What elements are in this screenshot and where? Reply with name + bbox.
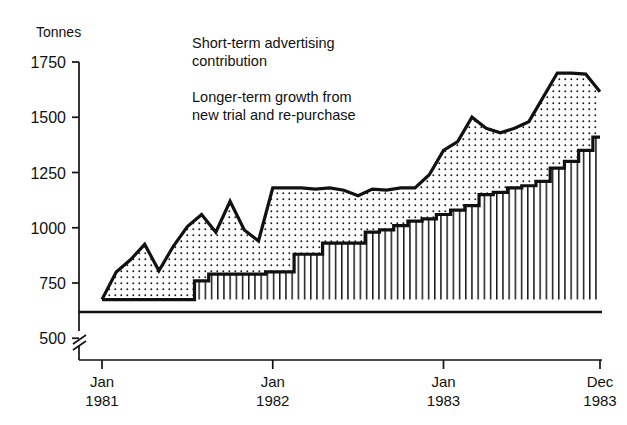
y-tick-label-1500: 1500 (30, 109, 66, 126)
x-tick-month-2: Jan (431, 373, 455, 390)
y-tick-label-1000: 1000 (30, 220, 66, 237)
dotted-swatch (138, 36, 180, 52)
y-tick-group: 5007501000125015001750 (30, 54, 79, 347)
y-axis-title: Tonnes (36, 24, 81, 40)
x-tick-year-2: 1983 (427, 392, 460, 409)
x-tick-year-0: 1981 (85, 392, 118, 409)
x-tick-month-3: Dec (587, 373, 614, 390)
legend-item-0-line1: Short-term advertising (192, 35, 335, 51)
x-tick-year-3: 1983 (583, 392, 616, 409)
chart-container: Tonnes Short-term advertising contributi… (0, 0, 627, 425)
y-tick-label-1750: 1750 (30, 54, 66, 71)
hatch-swatch (138, 88, 180, 108)
y-tick-label-1250: 1250 (30, 165, 66, 182)
x-tick-group: Jan1981Jan1982Jan1983Dec1983 (85, 360, 616, 409)
y-tick-label-500: 500 (39, 330, 66, 347)
chart-svg: Tonnes Short-term advertising contributi… (0, 0, 627, 425)
legend-item-1-line1: Longer-term growth from (192, 89, 352, 105)
x-tick-month-0: Jan (90, 373, 114, 390)
legend-item-1-line2: new trial and re-purchase (192, 107, 356, 123)
legend: Short-term advertising contribution Long… (138, 35, 356, 123)
x-tick-month-1: Jan (261, 373, 285, 390)
y-tick-label-750: 750 (39, 275, 66, 292)
x-tick-year-1: 1982 (256, 392, 289, 409)
legend-item-0-line2: contribution (192, 53, 267, 69)
